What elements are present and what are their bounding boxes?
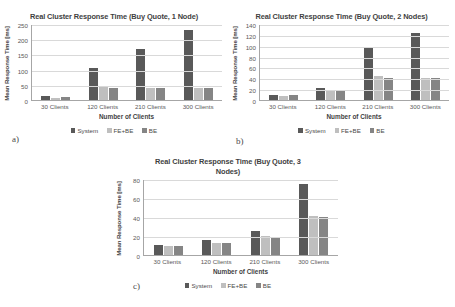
- bar-fe-be: [421, 78, 430, 100]
- y-tick-label: 0: [253, 98, 256, 105]
- chart-legend: SystemFE+BEBE: [0, 127, 228, 134]
- bar-fe-be: [326, 90, 335, 100]
- bar-be: [222, 243, 231, 255]
- gridline: [144, 237, 338, 238]
- x-axis-ticks: 30 Clients120 Clients210 Clients300 Clie…: [31, 103, 222, 110]
- y-tick-label: 100: [246, 43, 256, 50]
- gridline: [32, 25, 222, 26]
- bar-fe-be: [194, 88, 203, 100]
- y-tick-label: 0: [25, 98, 28, 105]
- y-tick-label: 40: [133, 215, 140, 222]
- legend-item: System: [185, 282, 212, 289]
- gridline: [32, 55, 222, 56]
- legend-label: BE: [263, 282, 271, 289]
- y-tick-label: 0: [137, 253, 140, 260]
- gridline: [260, 58, 449, 59]
- bar-fe-be: [309, 216, 318, 255]
- x-tick-label: 210 Clients: [127, 103, 175, 110]
- bar-be: [319, 217, 328, 255]
- chart-panel-a: Real Cluster Response Time (Buy Quote, 1…: [0, 2, 228, 154]
- chart-legend: SystemFE+BEBE: [228, 127, 455, 134]
- legend-label: FE+BE: [114, 127, 134, 134]
- y-tick-label: 60: [133, 196, 140, 203]
- y-tick-label: 200: [18, 37, 28, 44]
- legend-item: FE+BE: [107, 127, 133, 134]
- plot-canvas: [259, 25, 449, 101]
- bar-system: [299, 184, 308, 255]
- x-tick-label: 210 Clients: [241, 258, 290, 265]
- legend-swatch-icon: [256, 283, 261, 288]
- gridline: [144, 180, 338, 181]
- legend-item: System: [298, 127, 325, 134]
- bar-be: [431, 78, 440, 100]
- gridline: [144, 199, 338, 200]
- legend-item: System: [71, 127, 98, 134]
- legend-label: BE: [149, 127, 157, 134]
- legend-label: FE+BE: [341, 127, 361, 134]
- x-tick-label: 210 Clients: [354, 103, 402, 110]
- bar-be: [289, 95, 298, 100]
- y-tick-label: 20: [249, 87, 256, 94]
- panel-tag-c: c): [133, 281, 140, 291]
- panel-tag-a: a): [12, 134, 19, 144]
- gridline: [144, 218, 338, 219]
- bar-system: [154, 245, 163, 255]
- x-tick-label: 120 Clients: [192, 258, 241, 265]
- plot-canvas: [143, 180, 338, 256]
- y-axis-ticks: 020406080100120140: [238, 25, 258, 101]
- bar-system: [89, 68, 98, 100]
- chart-title: Real Cluster Response Time (Buy Quote, 3…: [112, 157, 344, 177]
- gridline: [260, 79, 449, 80]
- legend-swatch-icon: [335, 128, 340, 133]
- y-tick-label: 150: [18, 52, 28, 59]
- y-tick-label: 140: [246, 22, 256, 29]
- gridline: [32, 40, 222, 41]
- legend-swatch-icon: [71, 128, 76, 133]
- bar-fe-be: [212, 243, 221, 255]
- bar-fe-be: [261, 236, 270, 255]
- bar-system: [251, 231, 260, 255]
- bar-group: [127, 25, 175, 100]
- legend-swatch-icon: [370, 128, 375, 133]
- y-tick-label: 250: [18, 22, 28, 29]
- chart-legend: SystemFE+BEBE: [112, 282, 344, 289]
- x-axis-ticks: 30 Clients120 Clients210 Clients300 Clie…: [259, 103, 449, 110]
- legend-label: System: [191, 282, 212, 289]
- gridline: [32, 86, 222, 87]
- x-tick-label: 30 Clients: [31, 103, 79, 110]
- gridline: [32, 71, 222, 72]
- y-tick-label: 100: [18, 67, 28, 74]
- bar-be: [336, 90, 345, 100]
- legend-swatch-icon: [142, 128, 147, 133]
- bar-system: [41, 96, 50, 100]
- bar-be: [61, 97, 70, 100]
- y-tick-label: 60: [249, 65, 256, 72]
- x-tick-label: 120 Clients: [307, 103, 355, 110]
- y-tick-label: 20: [133, 234, 140, 241]
- x-axis-label: Number of Clients: [259, 113, 449, 120]
- legend-label: System: [305, 127, 326, 134]
- legend-swatch-icon: [107, 128, 112, 133]
- legend-item: FE+BE: [335, 127, 361, 134]
- bar-be: [156, 88, 165, 100]
- bar-be: [109, 88, 118, 100]
- bar-system: [202, 240, 211, 255]
- y-tick-label: 50: [21, 82, 28, 89]
- bar-fe-be: [51, 98, 60, 100]
- gridline: [260, 47, 449, 48]
- gridline: [260, 68, 449, 69]
- y-tick-label: 80: [249, 54, 256, 61]
- legend-swatch-icon: [221, 283, 226, 288]
- bar-system: [269, 95, 278, 100]
- bar-fe-be: [99, 87, 108, 100]
- bar-group: [175, 25, 223, 100]
- plot-area: Mean Response Time [ms] 050100150200250 …: [0, 25, 228, 101]
- x-tick-label: 30 Clients: [259, 103, 307, 110]
- y-tick-label: 40: [249, 76, 256, 83]
- gridline: [260, 90, 449, 91]
- legend-swatch-icon: [298, 128, 303, 133]
- legend-item: BE: [370, 127, 385, 134]
- x-axis-ticks: 30 Clients120 Clients210 Clients300 Clie…: [143, 258, 338, 265]
- bar-group: [32, 25, 80, 100]
- y-axis-ticks: 050100150200250: [10, 25, 30, 101]
